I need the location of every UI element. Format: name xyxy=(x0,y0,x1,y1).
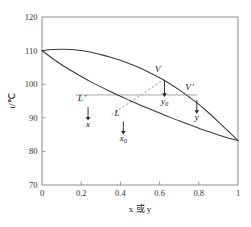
annotation-label-V: V xyxy=(155,64,162,74)
annotation-value-V-prime: y xyxy=(194,112,199,122)
y-tick-label: 120 xyxy=(25,12,38,22)
txy-phase-diagram-svg: 00.20.40.60.81708090100110120x 或 yt/℃L′x… xyxy=(0,0,251,227)
y-tick-label: 70 xyxy=(29,180,38,190)
subscript: 0 xyxy=(124,137,128,144)
y-tick-label: 90 xyxy=(29,113,38,123)
x-axis-title: x 或 y xyxy=(129,203,152,214)
annotation-V-prime: V′y xyxy=(185,82,199,122)
subscript: 0 xyxy=(165,100,169,107)
liquid-curve xyxy=(42,51,238,141)
annotation-label-L: L xyxy=(113,108,119,118)
dashed-operating-line xyxy=(112,79,165,114)
y-axis-title: t/℃ xyxy=(7,93,17,108)
prime-mark: ′ xyxy=(84,93,87,103)
annotation-value-L-prime: x xyxy=(85,119,90,129)
y-tick-label: 110 xyxy=(25,46,37,56)
x-tick-label: 0.2 xyxy=(76,188,87,198)
y-tick-label: 100 xyxy=(25,79,38,89)
x-tick-label: 0.4 xyxy=(115,188,126,198)
x-tick-label: 0.8 xyxy=(193,188,204,198)
x-tick-label: 0.6 xyxy=(154,188,165,198)
x-tick-label: 1 xyxy=(236,188,240,198)
phase-diagram-chart: 00.20.40.60.81708090100110120x 或 yt/℃L′x… xyxy=(0,0,251,227)
annotation-value-L: x0 xyxy=(119,133,128,144)
plot-frame xyxy=(42,17,238,185)
prime-mark: ′ xyxy=(192,82,195,92)
x-tick-label: 0 xyxy=(40,188,44,198)
annotation-L-prime: L′x xyxy=(77,93,90,129)
annotation-label-L-prime: L′ xyxy=(77,93,87,103)
annotation-label-V-prime: V′ xyxy=(185,82,195,92)
annotation-value-V: y0 xyxy=(160,96,169,107)
annotation-L: Lx0 xyxy=(113,108,127,144)
annotation-V: Vy0 xyxy=(155,64,169,107)
y-tick-label: 80 xyxy=(29,146,38,156)
